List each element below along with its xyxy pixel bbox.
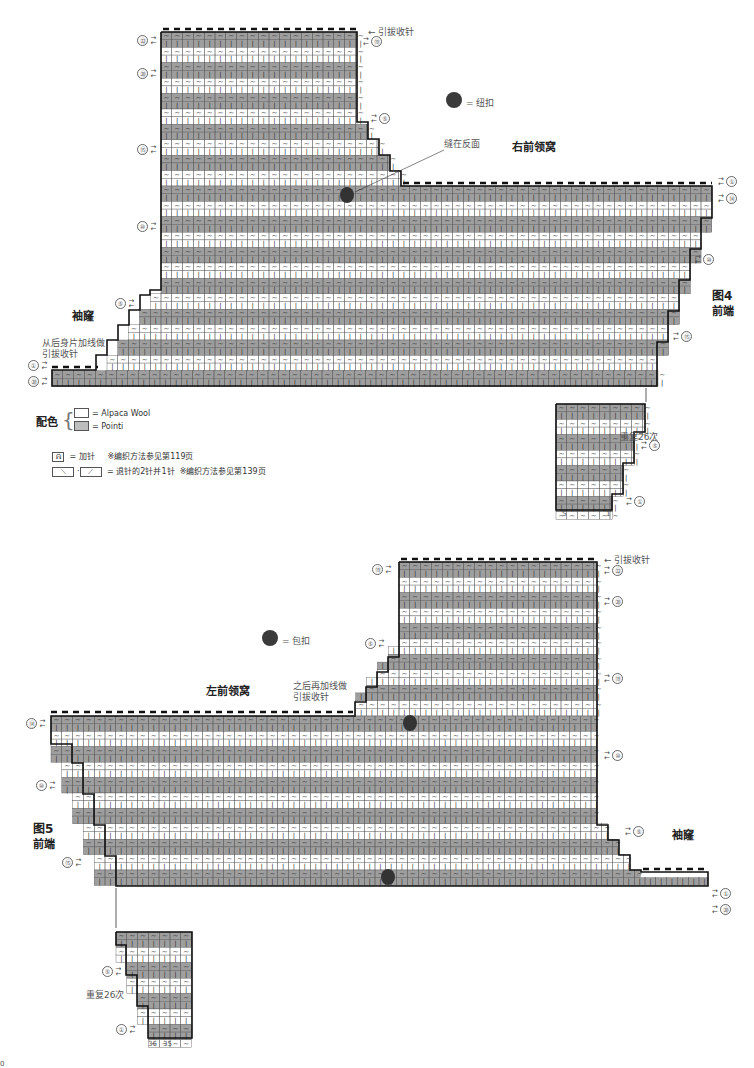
svg-text:|: | [476,878,478,886]
svg-text:|: | [368,878,370,886]
svg-text:|: | [692,878,694,886]
svg-text:|: | [196,878,198,886]
svg-text:|: | [487,878,489,886]
fig5-row-marker: ⑭ →← [26,718,45,729]
svg-text:|: | [649,878,651,886]
svg-text:|: | [336,878,338,886]
svg-text:|: | [563,878,565,886]
svg-text:|: | [88,847,90,855]
fig5-button-legend: = 包扣 [282,634,310,647]
svg-text:|: | [574,878,576,886]
svg-text:|: | [412,878,414,886]
svg-text:~: ~ [172,1040,178,1048]
svg-text:|: | [250,878,252,886]
svg-text:|: | [131,878,133,886]
svg-text:|: | [260,878,262,886]
svg-text:|: | [638,878,640,886]
svg-text:|: | [433,878,435,886]
svg-text:|: | [120,955,122,963]
svg-text:|: | [379,878,381,886]
fig5-row-marker: ⑤ →← [365,638,384,649]
svg-text:|: | [304,878,306,886]
svg-text:|: | [509,878,511,886]
wrapped-button-legend-icon [262,630,278,646]
fig5-row-marker: →← ㉒ [604,565,623,576]
svg-text:|: | [455,878,457,886]
svg-text:|: | [206,878,208,886]
svg-text:|: | [314,878,316,886]
svg-text:|: | [271,878,273,886]
fig5-repeat-note: 重复26次 [86,988,124,1001]
fig5-row-marker: ⑲ →← [372,564,391,575]
fig5-row-marker: ⑩ →← [36,780,55,791]
svg-text:|: | [498,878,500,886]
fig5-figure-label: 图5前端 [33,822,55,852]
fig5-row-marker: →← ① [712,888,731,899]
svg-text:|: | [239,878,241,886]
fig5-armhole-title: 袖窿 [672,826,694,842]
svg-text:|: | [142,1017,144,1025]
svg-text:~: ~ [183,1040,189,1048]
svg-text:|: | [142,878,144,886]
svg-text:|: | [131,986,133,994]
svg-text:|: | [444,878,446,886]
fig5-row-marker: →← ⑩ [604,750,623,761]
svg-text:|: | [325,878,327,886]
svg-text:|: | [584,878,586,886]
page-marker: 0 [0,1060,4,1068]
fig5-neck-title: 左前领窝 [206,682,250,698]
fig5-row-marker: →← ⑲ [604,673,623,684]
svg-text:|: | [541,878,543,886]
svg-text:|: | [174,878,176,886]
svg-text:|: | [163,878,165,886]
svg-text:|: | [595,878,597,886]
svg-text:|: | [682,878,684,886]
svg-text:|: | [422,878,424,886]
svg-text:|: | [703,878,705,886]
svg-text:|: | [185,878,187,886]
svg-text:|: | [282,878,284,886]
svg-text:|: | [293,878,295,886]
svg-text:|: | [628,878,630,886]
fig5-row-marker: ⑤ →← [102,966,121,977]
svg-text:|: | [466,878,468,886]
fig5-stitch-number-35: 35 [163,1040,172,1048]
svg-text:|: | [520,878,522,886]
svg-text:|: | [347,878,349,886]
fig5-stitch-number-36: 36 [148,1040,157,1048]
fig5-after-note-2: 引拔收针 [293,690,329,703]
svg-text:|: | [120,878,122,886]
fig5-row-marker: →← ⑳ [604,596,623,607]
svg-text:|: | [401,878,403,886]
svg-text:|: | [530,878,532,886]
svg-text:|: | [617,878,619,886]
svg-text:|: | [606,878,608,886]
svg-text:|: | [98,878,100,886]
svg-text:|: | [228,878,230,886]
svg-text:|: | [552,878,554,886]
svg-text:|: | [55,755,57,763]
svg-text:|: | [77,816,79,824]
svg-text:|: | [660,878,662,886]
svg-text:|: | [66,786,68,794]
fig5-row-marker: →← ⑤ [625,826,644,837]
svg-text:|: | [152,878,154,886]
svg-text:|: | [358,878,360,886]
figure5-knitting-chart: ~~~~~~~~~~~~~~~~~~~|||||||||||||||||||~~… [0,0,754,1068]
svg-text:|: | [671,878,673,886]
fig5-row-marker: ⑮ →← [62,857,81,868]
svg-text:|: | [217,878,219,886]
svg-text:|: | [109,878,111,886]
fig5-row-marker: ① →← [116,1024,135,1035]
fig5-row-marker: →← ⑳ [712,904,731,915]
